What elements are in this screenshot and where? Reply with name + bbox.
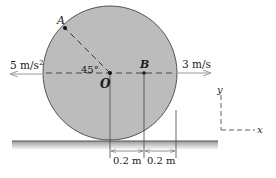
rolling-disk-diagram: A O B 45° 5 m/s2 3 m/s 0.2 m 0.2 m y x <box>0 0 276 178</box>
label-point-O: O <box>100 77 111 91</box>
dimension-label-2: 0.2 m <box>147 155 176 166</box>
axis-label-x: x <box>257 124 263 135</box>
velocity-label: 3 m/s <box>182 58 211 70</box>
label-point-A: A <box>56 14 65 27</box>
label-point-B: B <box>139 58 149 71</box>
point-O-marker <box>108 71 112 75</box>
axis-label-y: y <box>216 84 223 95</box>
point-B-marker <box>142 71 146 75</box>
axes-indicator <box>221 95 255 130</box>
angle-label: 45° <box>81 64 99 75</box>
ground <box>12 141 218 150</box>
dimension-label-1: 0.2 m <box>113 155 142 166</box>
acceleration-label: 5 m/s2 <box>10 59 43 71</box>
